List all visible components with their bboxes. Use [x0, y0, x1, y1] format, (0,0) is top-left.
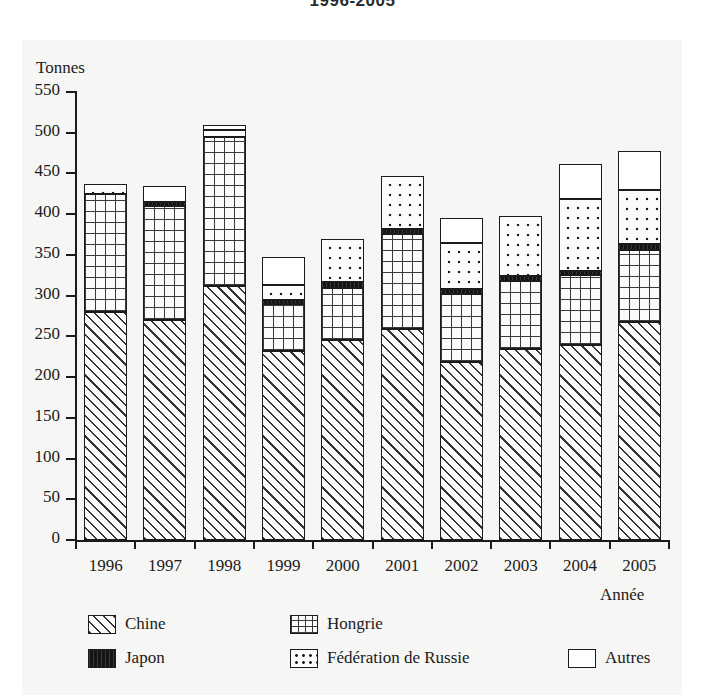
legend-swatch-japon-icon [88, 649, 116, 668]
legend-label-chine: Chine [125, 614, 166, 634]
legend-swatch-russie-icon [290, 649, 318, 668]
legend-item-hongrie: Hongrie [290, 614, 383, 634]
legend-label-autres: Autres [605, 648, 650, 668]
chart-page: 1996-2005 Tonnes Année 05010015020025030… [0, 0, 705, 698]
legend-label-russie: Fédération de Russie [327, 648, 470, 668]
legend-label-japon: Japon [125, 648, 165, 668]
legend-item-japon: Japon [88, 648, 165, 668]
legend-item-chine: Chine [88, 614, 166, 634]
legend-item-autres: Autres [568, 648, 650, 668]
legend-swatch-chine-icon [88, 615, 116, 634]
legend-label-hongrie: Hongrie [327, 614, 383, 634]
legend-item-russie: Fédération de Russie [290, 648, 470, 668]
legend-swatch-hongrie-icon [290, 615, 318, 634]
chart-legend: Chine Hongrie Japon Fédération de Russie… [0, 0, 705, 698]
legend-swatch-autres-icon [568, 649, 596, 668]
